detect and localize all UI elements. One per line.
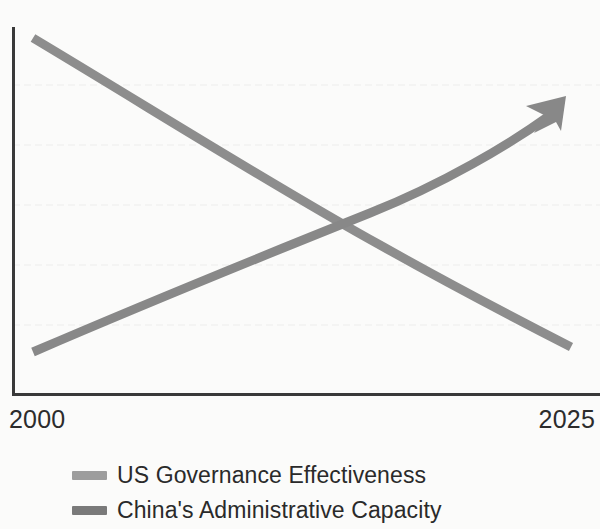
legend-item-chinas-administrative-capacity[interactable]: China's Administrative Capacity (0, 493, 600, 528)
legend-item-label: US Governance Effectiveness (117, 462, 426, 489)
line-chart: 2000 2025 US Governance Effectiveness Ch… (0, 0, 600, 529)
legend-swatch-icon (72, 506, 107, 515)
plot-area (0, 0, 600, 400)
series-line-us-governance-effectiveness (33, 38, 571, 347)
legend-item-label: China's Administrative Capacity (117, 497, 442, 524)
chart-legend: US Governance Effectiveness China's Admi… (0, 458, 600, 528)
x-axis-tick-labels: 2000 2025 (0, 404, 600, 438)
x-tick-label-start: 2000 (9, 404, 65, 434)
legend-swatch-icon (72, 471, 107, 480)
x-tick-label-end: 2025 (539, 404, 595, 434)
series-line-chinas-administrative-capacity (33, 116, 549, 352)
legend-item-us-governance-effectiveness[interactable]: US Governance Effectiveness (0, 458, 600, 493)
plot-svg (0, 0, 600, 400)
